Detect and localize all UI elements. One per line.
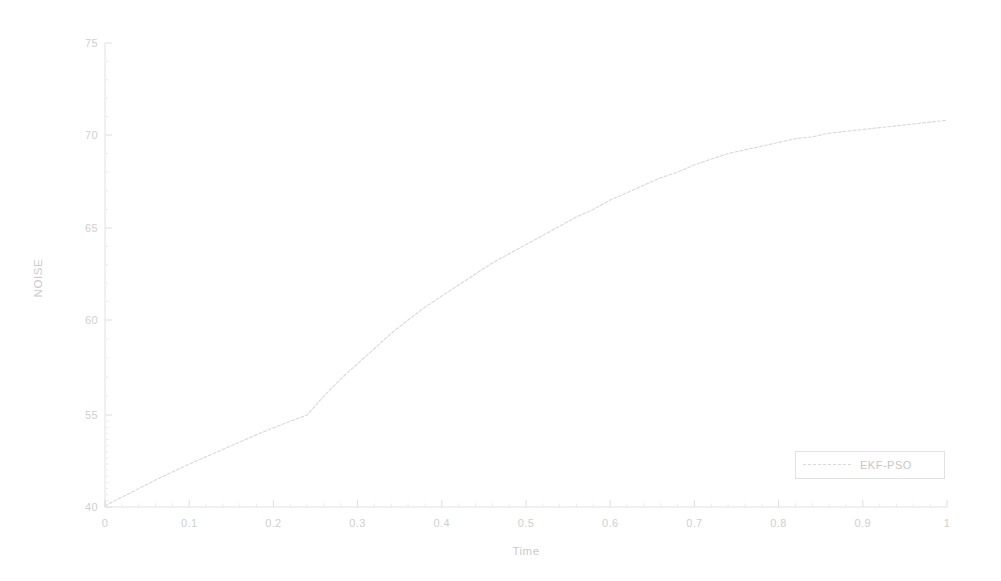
x-axis-label: Time <box>512 545 539 557</box>
y-tick-label: 75 <box>60 37 98 49</box>
y-tick-label: 60 <box>60 314 98 326</box>
x-tick-label: 0.5 <box>518 517 535 529</box>
x-tick-label: 0.7 <box>686 517 703 529</box>
y-axis-ticks <box>105 43 112 507</box>
y-axis-minor-ticks <box>105 61 109 500</box>
x-tick-label: 0.3 <box>349 517 366 529</box>
figure-canvas: 405560657075 00.10.20.30.40.50.60.70.80.… <box>0 0 1001 581</box>
legend-line-sample-ekf-pso <box>803 464 851 466</box>
x-tick-label: 0.2 <box>265 517 282 529</box>
plot-area <box>0 0 1001 581</box>
x-tick-label: 1 <box>944 517 951 529</box>
x-tick-label: 0.8 <box>770 517 787 529</box>
y-axis-label: NOISE <box>32 259 44 298</box>
x-tick-label: 0 <box>102 517 109 529</box>
legend: EKF-PSO <box>795 451 945 479</box>
y-tick-label: 70 <box>60 129 98 141</box>
y-tick-label: 65 <box>60 222 98 234</box>
x-tick-label: 0.9 <box>855 517 872 529</box>
y-tick-label: 55 <box>60 409 98 421</box>
data-series-ekf-pso <box>105 120 947 505</box>
y-tick-label: 40 <box>60 501 98 513</box>
x-tick-label: 0.6 <box>602 517 619 529</box>
x-axis-ticks <box>105 500 947 507</box>
x-tick-label: 0.4 <box>434 517 451 529</box>
legend-label-ekf-pso: EKF-PSO <box>860 459 912 471</box>
x-tick-label: 0.1 <box>181 517 198 529</box>
